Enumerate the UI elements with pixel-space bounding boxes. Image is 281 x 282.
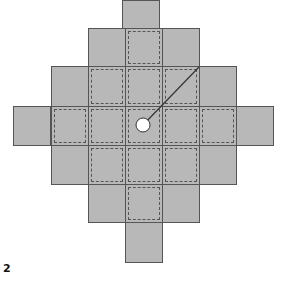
figure-label: 2	[3, 262, 11, 275]
overlay-graphics	[0, 0, 281, 282]
center-circle	[136, 118, 150, 132]
diagonal-line	[143, 67, 199, 125]
